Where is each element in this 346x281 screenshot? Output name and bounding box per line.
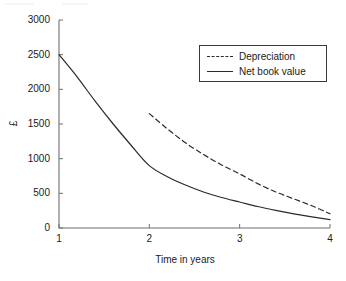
x-tick-label: 4: [320, 234, 340, 244]
chart-figure: £ Time in years 050010001500200025003000…: [0, 0, 346, 281]
y-tick-label: 2500: [8, 50, 50, 60]
legend-item-depreciation[interactable]: Depreciation: [207, 49, 295, 63]
dashed-line-icon: [207, 51, 233, 61]
legend[interactable]: Depreciation Net book value: [199, 45, 327, 82]
solid-line-icon: [207, 66, 233, 76]
legend-item-net-book-value[interactable]: Net book value: [207, 64, 306, 78]
y-tick-label: 0: [8, 223, 50, 233]
y-tick-label: 1500: [8, 119, 50, 129]
y-tick-label: 2000: [8, 84, 50, 94]
y-tick-label: 3000: [8, 15, 50, 25]
y-tick-label: 1000: [8, 154, 50, 164]
x-tick-label: 2: [139, 234, 159, 244]
x-tick-label: 3: [230, 234, 250, 244]
legend-label: Net book value: [239, 66, 306, 77]
y-tick-label: 500: [8, 188, 50, 198]
x-tick-label: 1: [49, 234, 69, 244]
x-axis-label: Time in years: [125, 254, 245, 265]
legend-label: Depreciation: [239, 51, 295, 62]
